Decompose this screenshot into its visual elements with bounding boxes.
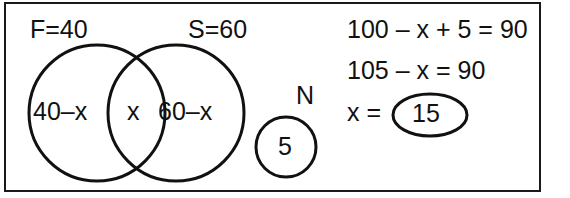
answer-value: 15 xyxy=(412,101,440,126)
equation-line-1: 100 – x + 5 = 90 xyxy=(347,17,528,42)
region-label-intersection: x xyxy=(127,99,140,124)
equation-line-3: x = xyxy=(347,100,381,125)
region-label-f-only: 40–x xyxy=(33,99,87,124)
region-label-neither: 5 xyxy=(278,134,292,159)
region-label-s-only: 60–x xyxy=(158,99,212,124)
set-label-n: N xyxy=(296,83,314,108)
set-label-s: S=60 xyxy=(188,17,247,42)
equation-line-2: 105 – x = 90 xyxy=(347,58,485,83)
worksheet-page: F=40 S=60 N 40–x x 60–x 5 100 – x + 5 = … xyxy=(0,0,570,198)
set-label-f: F=40 xyxy=(30,17,88,42)
